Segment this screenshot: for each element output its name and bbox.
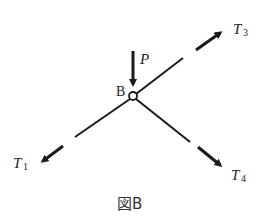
figure-caption: 図B <box>117 195 142 213</box>
force-arrow-t4 <box>198 147 220 165</box>
svg-text:3: 3 <box>243 27 248 38</box>
svg-text:1: 1 <box>23 161 28 172</box>
member-t1 <box>43 99 130 161</box>
svg-text:T: T <box>233 21 243 37</box>
svg-text:4: 4 <box>241 173 246 184</box>
svg-text:T: T <box>231 167 241 183</box>
svg-text:T: T <box>13 155 23 171</box>
free-body-diagram: P B T 3 T 1 T 4 図B <box>0 0 265 218</box>
load-label-p: P <box>139 51 149 67</box>
force-label-t1: T 1 <box>13 155 28 172</box>
force-label-t3: T 3 <box>233 21 248 38</box>
node-label-b: B <box>116 84 125 99</box>
force-label-t4: T 4 <box>231 167 246 184</box>
force-arrow-t1 <box>43 146 63 161</box>
member-t4 <box>136 99 220 165</box>
node-b-circle <box>129 92 137 100</box>
force-arrow-t3 <box>196 33 220 50</box>
